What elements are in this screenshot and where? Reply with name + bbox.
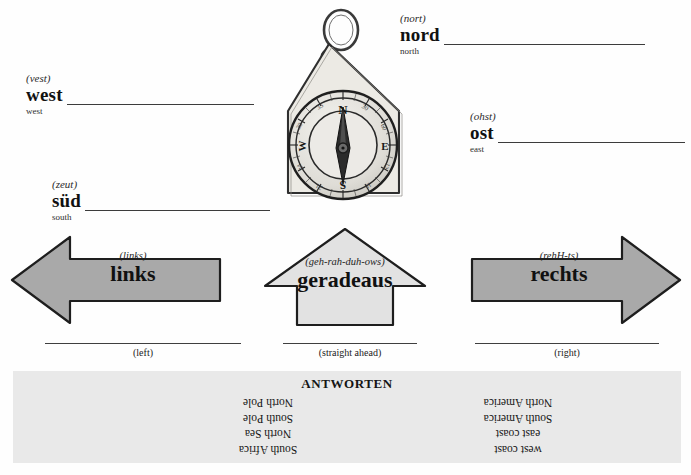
- english-gloss-sued: south: [52, 212, 270, 223]
- arrow-links: (links) links: [8, 234, 224, 330]
- english-gloss-ost: east: [470, 144, 685, 155]
- english-label-links: (left): [45, 346, 241, 359]
- write-on-line-nord[interactable]: [444, 29, 645, 45]
- arrow-rechts: (rehH-ts) rechts: [468, 234, 684, 330]
- answer-slot-links: (left): [45, 343, 241, 359]
- pronunciation-west: (vest): [26, 72, 254, 84]
- arrow-up-svg: [262, 226, 428, 328]
- answers-title: ANTWORTEN: [13, 376, 681, 392]
- answer-item: South Africa: [163, 442, 373, 458]
- write-on-line-west[interactable]: [67, 89, 254, 105]
- compass-pendant-icon: N E S W 30 60 12 15 21 24 30 33: [272, 8, 422, 220]
- answers-panel: ANTWORTEN South Africa North Sea South P…: [13, 371, 681, 463]
- german-word-west: west: [26, 84, 63, 105]
- answer-item: South America: [413, 411, 623, 427]
- answers-column-left: South Africa North Sea South Pole North …: [163, 395, 373, 457]
- answer-item: North Sea: [163, 426, 373, 442]
- word-row-ost: ost: [470, 122, 685, 143]
- worksheet-page: (vest) west west (nort) nord north (zeut…: [0, 0, 691, 475]
- compass-label-west: W: [296, 141, 308, 152]
- arrow-geradeaus: (geh-rah-duh-ows) geradeaus: [262, 226, 428, 332]
- pronunciation-sued: (zeut): [52, 178, 270, 190]
- arrow-rechts-shape: (rehH-ts) rechts: [468, 234, 684, 330]
- english-gloss-nord: north: [400, 46, 645, 57]
- answer-item: west coast: [413, 442, 623, 458]
- arrow-links-shape: (links) links: [8, 234, 224, 330]
- vocab-entry-ost: (ohst) ost east: [470, 110, 685, 155]
- arrow-geradeaus-shape: (geh-rah-duh-ows) geradeaus: [262, 226, 428, 332]
- word-row-west: west: [26, 84, 254, 105]
- arrow-right-svg: [468, 234, 684, 326]
- answer-slot-rechts: (right): [475, 343, 659, 359]
- word-row-nord: nord: [400, 24, 645, 45]
- word-row-sued: süd: [52, 190, 270, 211]
- english-label-rechts: (right): [475, 346, 659, 359]
- compass-label-east: E: [381, 140, 388, 152]
- write-on-line-rechts[interactable]: [475, 343, 659, 344]
- answer-item: North America: [413, 395, 623, 411]
- german-word-sued: süd: [52, 190, 81, 211]
- vocab-entry-sued: (zeut) süd south: [52, 178, 270, 223]
- vocab-entry-west: (vest) west west: [26, 72, 254, 117]
- german-word-ost: ost: [470, 122, 494, 143]
- write-on-line-sued[interactable]: [85, 195, 270, 211]
- write-on-line-ost[interactable]: [498, 127, 685, 143]
- answer-item: South Pole: [163, 411, 373, 427]
- pronunciation-ost: (ohst): [470, 110, 685, 122]
- write-on-line-geradeaus[interactable]: [283, 343, 417, 344]
- write-on-line-links[interactable]: [45, 343, 241, 344]
- answer-item: North Pole: [163, 395, 373, 411]
- answer-slot-geradeaus: (straight ahead): [283, 343, 417, 359]
- english-gloss-west: west: [26, 106, 254, 117]
- answer-item: east coast: [413, 426, 623, 442]
- vocab-entry-nord: (nort) nord north: [400, 12, 645, 57]
- pronunciation-nord: (nort): [400, 12, 645, 24]
- compass-pendant-svg: N E S W 30 60 12 15 21 24 30 33: [272, 8, 422, 220]
- answers-column-right: west coast east coast South America Nort…: [413, 395, 623, 457]
- arrow-left-svg: [8, 234, 224, 326]
- english-label-geradeaus: (straight ahead): [283, 346, 417, 359]
